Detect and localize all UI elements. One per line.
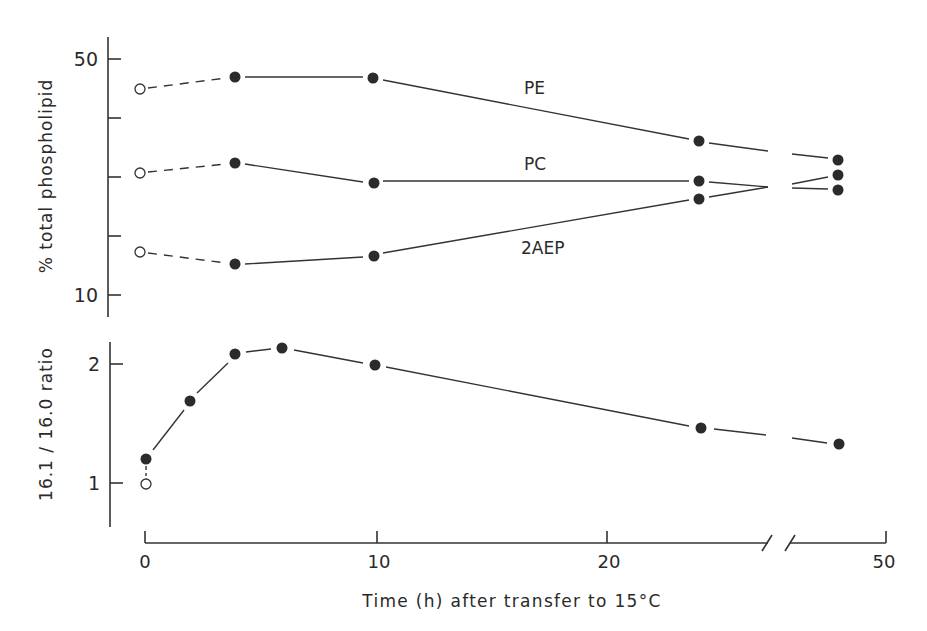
bottom-tick-label-2: 2 [88,353,100,375]
figure: 50 10 % total phospholipid [0,0,927,631]
top-y-axis-title: % total phospholipid [36,79,56,273]
ratio-point [277,343,288,354]
x-tick-label-10: 10 [368,551,391,572]
pe-point [694,136,705,147]
bottom-y-axis: 2 1 16.1 / 16.0 ratio [36,342,123,527]
pe-point [230,72,241,83]
ratio-point [696,423,707,434]
pc-point [230,158,241,169]
pe-point [368,73,379,84]
bottom-tick-label-1: 1 [88,472,100,494]
top-tick-label-50: 50 [74,48,98,70]
bottom-y-axis-title: 16.1 / 16.0 ratio [36,347,56,501]
pe-point-open [135,84,145,94]
label-2aep: 2AEP [521,238,564,258]
ratio-point [370,360,381,371]
ratio-point [185,396,196,407]
label-pc: PC [524,154,546,174]
top-tick-label-10: 10 [74,284,98,306]
label-pe: PE [524,78,545,98]
ratio-point [230,349,241,360]
pc-point [369,178,380,189]
ratio-point-open [141,479,151,489]
pc-point-open [135,168,145,178]
ratio-point [141,454,152,465]
ratio-point [834,439,845,450]
x-tick-label-50: 50 [873,551,896,572]
2aep-point [694,194,705,205]
x-axis-title: Time (h) after transfer to 15°C [361,591,661,611]
top-y-axis: 50 10 % total phospholipid [36,37,121,317]
x-axis: 0 10 20 50 Time (h) after transfer to 15… [139,531,895,611]
2aep-point [369,251,380,262]
series-ratio [141,343,845,490]
2aep-point [230,259,241,270]
series-pc [135,158,844,196]
pe-point [833,155,844,166]
x-tick-label-20: 20 [598,551,621,572]
2aep-point-open [135,247,145,257]
x-tick-label-0: 0 [139,551,150,572]
2aep-point [833,170,844,181]
pc-point [833,185,844,196]
series-pe [135,72,844,166]
pc-point [694,176,705,187]
